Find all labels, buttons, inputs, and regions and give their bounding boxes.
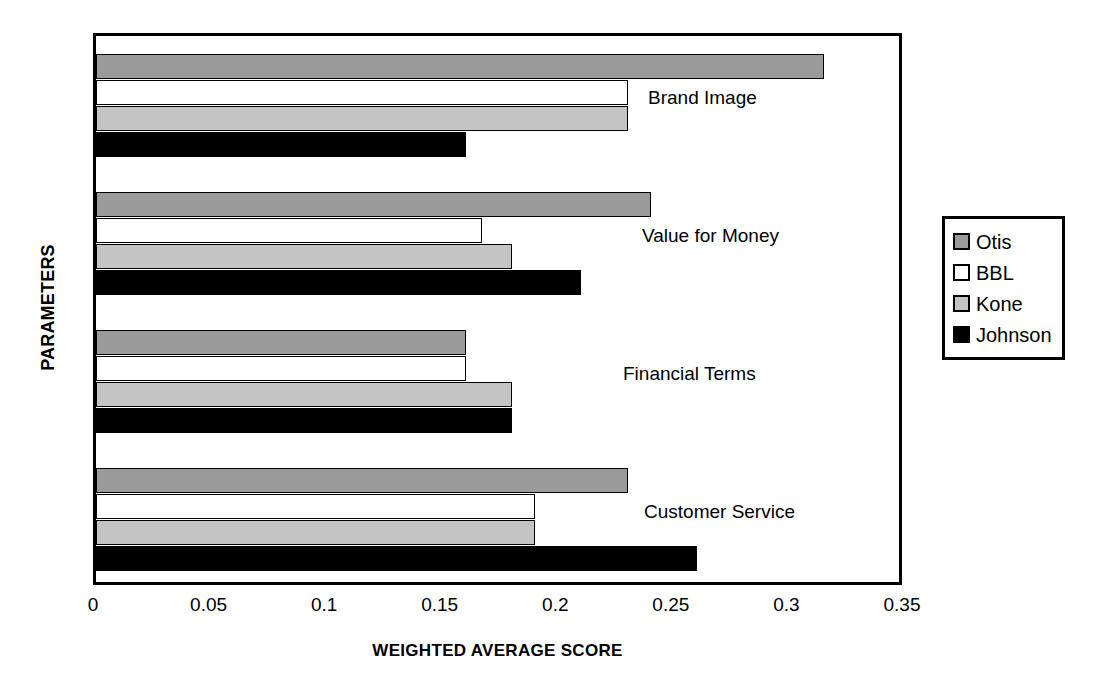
bar-bbl-financial-terms[interactable]: [96, 356, 466, 381]
legend-swatch-kone: [953, 295, 970, 312]
bar-otis-customer-service[interactable]: [96, 468, 628, 493]
chart-legend: OtisBBLKoneJohnson: [942, 216, 1065, 360]
bar-johnson-brand-image[interactable]: [96, 132, 466, 157]
bar-group: Financial Terms: [96, 312, 899, 450]
bar-chart: PARAMETERS Brand ImageValue for MoneyFin…: [0, 0, 1097, 688]
legend-item-johnson[interactable]: Johnson: [953, 319, 1052, 350]
x-axis-tick-labels: 00.050.10.150.20.250.30.35: [0, 594, 1097, 622]
x-tick-label: 0: [88, 594, 99, 616]
category-label: Customer Service: [644, 501, 795, 523]
x-tick-label: 0.1: [311, 594, 337, 616]
x-axis-title: WEIGHTED AVERAGE SCORE: [93, 641, 902, 661]
bar-otis-financial-terms[interactable]: [96, 330, 466, 355]
bar-johnson-customer-service[interactable]: [96, 546, 697, 571]
y-axis-title: PARAMETERS: [38, 198, 59, 418]
bar-otis-brand-image[interactable]: [96, 54, 824, 79]
x-tick-label: 0.2: [542, 594, 568, 616]
legend-label: Kone: [976, 294, 1023, 314]
category-label: Financial Terms: [623, 363, 756, 385]
bar-otis-value-for-money[interactable]: [96, 192, 651, 217]
category-label: Brand Image: [648, 87, 757, 109]
legend-label: Otis: [976, 232, 1012, 252]
legend-item-otis[interactable]: Otis: [953, 226, 1052, 257]
bar-johnson-value-for-money[interactable]: [96, 270, 581, 295]
plot-area: Brand ImageValue for MoneyFinancial Term…: [93, 33, 902, 585]
legend-item-kone[interactable]: Kone: [953, 288, 1052, 319]
bar-kone-brand-image[interactable]: [96, 106, 628, 131]
x-tick-label: 0.05: [190, 594, 227, 616]
x-tick-label: 0.15: [421, 594, 458, 616]
legend-swatch-bbl: [953, 264, 970, 281]
bar-kone-value-for-money[interactable]: [96, 244, 512, 269]
bar-bbl-customer-service[interactable]: [96, 494, 535, 519]
bar-johnson-financial-terms[interactable]: [96, 408, 512, 433]
legend-swatch-johnson: [953, 326, 970, 343]
bar-bbl-value-for-money[interactable]: [96, 218, 482, 243]
legend-label: Johnson: [976, 325, 1052, 345]
legend-item-bbl[interactable]: BBL: [953, 257, 1052, 288]
x-tick-label: 0.25: [652, 594, 689, 616]
legend-swatch-otis: [953, 233, 970, 250]
plot-inner: Brand ImageValue for MoneyFinancial Term…: [96, 36, 899, 582]
category-label: Value for Money: [642, 225, 779, 247]
bar-group: Brand Image: [96, 36, 899, 174]
bar-group: Customer Service: [96, 450, 899, 588]
bar-kone-financial-terms[interactable]: [96, 382, 512, 407]
bar-group: Value for Money: [96, 174, 899, 312]
bar-bbl-brand-image[interactable]: [96, 80, 628, 105]
x-tick-label: 0.3: [773, 594, 799, 616]
bar-kone-customer-service[interactable]: [96, 520, 535, 545]
x-tick-label: 0.35: [884, 594, 921, 616]
legend-label: BBL: [976, 263, 1014, 283]
